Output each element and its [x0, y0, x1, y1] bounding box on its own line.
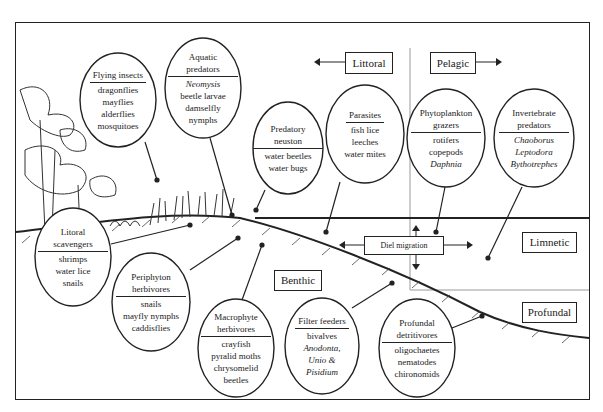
group-item: alderflies: [101, 108, 134, 120]
group-item: Unio &: [308, 354, 335, 366]
group-item: leeches: [352, 136, 378, 148]
group-aquatic-predators: Aquatic predatorsNeomysisbeetle larvaeda…: [167, 48, 239, 128]
group-predatory-neuston: Predatory neustonwater beetleswater bugs: [252, 108, 324, 188]
group-item: Chaoborus: [514, 134, 554, 146]
group-item: snails: [141, 298, 162, 310]
group-item: Daphnia: [430, 158, 462, 170]
group-macrophyte-herbivores: Macrophyte herbivorescrayfishpyralid mot…: [200, 308, 272, 388]
group-item: Neomysis: [186, 78, 221, 90]
diel-arrow-left-icon: [339, 241, 345, 249]
group-title: Invertebrate predators: [499, 107, 569, 133]
group-item: damselfly: [185, 102, 221, 114]
group-item: snails: [63, 277, 84, 289]
group-profundal-detritivores: Profundal detritivoresoligochaetesnemato…: [381, 308, 453, 388]
zone-label-pelagic: Pelagic: [430, 52, 476, 74]
zone-label-limnetic: Limnetic: [522, 232, 577, 253]
group-title: Predatory neuston: [253, 123, 323, 149]
group-item: water mites: [344, 148, 386, 160]
group-item: copepods: [429, 146, 463, 158]
arrow-left-icon: [314, 58, 320, 66]
group-item: pyralid moths: [211, 350, 261, 362]
group-title: Filter feeders: [295, 315, 349, 329]
group-item: fish lice: [351, 124, 380, 136]
group-title: Parasites: [346, 109, 384, 123]
group-item: Pisidium: [306, 366, 338, 378]
zone-label-benthic: Benthic: [274, 270, 322, 291]
group-item: nematodes: [398, 356, 437, 368]
group-item: rotifers: [433, 134, 459, 146]
group-item: water lice: [55, 265, 90, 277]
group-item: nymphs: [189, 114, 218, 126]
group-littoral-scavengers: Litoral scavengersshrimpswater licesnail…: [37, 217, 109, 297]
zone-label-littoral: Littoral: [345, 52, 393, 74]
group-item: mayflies: [103, 96, 134, 108]
group-title: Flying insects: [90, 69, 146, 83]
group-item: water beetles: [264, 150, 311, 162]
group-item: chrysomelid: [214, 362, 259, 374]
group-invertebrate-predators: Invertebrate predatorsChaoborusLeptodora…: [498, 98, 570, 178]
zone-label-diel-migration: Diel migration: [364, 236, 444, 255]
group-title: Litoral scavengers: [38, 226, 108, 252]
group-item: beetle larvae: [180, 90, 226, 102]
group-item: caddisflies: [132, 322, 171, 334]
group-item: Leptodora: [515, 146, 553, 158]
group-item: bivalves: [307, 330, 337, 342]
group-item: mayfly nymphs: [123, 310, 179, 322]
group-title: Periphyton herbivores: [116, 271, 186, 297]
group-item: crayfish: [222, 338, 251, 350]
group-item: dragonflies: [98, 84, 139, 96]
arrow-right-icon: [496, 58, 502, 66]
group-item: beetles: [224, 374, 249, 386]
group-title: Aquatic predators: [168, 51, 238, 77]
group-phytoplankton-grazers: Phytoplankton grazersrotiferscopepodsDap…: [410, 98, 482, 178]
group-filter-feeders: Filter feedersbivalvesAnodonta,Unio &Pis…: [286, 306, 358, 386]
group-title: Macrophyte herbivores: [201, 311, 271, 337]
diel-arrow-down-icon: [412, 264, 420, 270]
group-item: shrimps: [59, 253, 88, 265]
group-item: chironomids: [395, 368, 440, 380]
diel-arrow-up-icon: [412, 225, 420, 231]
group-flying-insects: Flying insectsdragonfliesmayfliesalderfl…: [82, 60, 154, 140]
group-item: oligochaetes: [395, 344, 440, 356]
group-item: Bythotrephes: [510, 158, 557, 170]
zone-label-profundal: Profundal: [522, 302, 577, 323]
group-title: Phytoplankton grazers: [411, 107, 481, 133]
diel-arrow-right-icon: [467, 241, 473, 249]
group-parasites: Parasitesfish liceleecheswater mites: [329, 94, 401, 174]
group-title: Profundal detritivores: [382, 317, 452, 343]
group-item: water bugs: [268, 162, 307, 174]
group-item: mosquitoes: [97, 120, 138, 132]
group-item: Anodonta,: [303, 342, 340, 354]
group-periphyton-herbivores: Periphyton herbivoressnailsmayfly nymphs…: [115, 262, 187, 342]
